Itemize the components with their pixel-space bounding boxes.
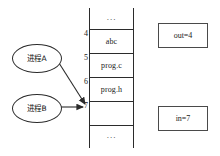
- row-index-4: 4: [78, 30, 88, 38]
- process-b-label: 进程B: [27, 105, 46, 113]
- buffer-row: ...: [89, 126, 134, 148]
- row-index-6: 6: [78, 78, 88, 86]
- buffer-row: abc: [89, 30, 134, 54]
- buffer-row: prog.c: [89, 54, 134, 78]
- in-pointer-box: in=7: [158, 106, 208, 131]
- out-pointer-label: out=4: [174, 32, 193, 40]
- buffer-cell-bottom-ellipsis: ...: [107, 131, 117, 143]
- buffer-row-empty-slot: [89, 102, 134, 126]
- process-a-label: 进程A: [27, 55, 46, 63]
- process-b-node: 进程B: [12, 94, 62, 123]
- buffer-table: ... abc prog.c prog.h ...: [89, 8, 134, 148]
- in-pointer-label: in=7: [176, 115, 191, 123]
- buffer-cell-value: prog.h: [101, 86, 122, 94]
- row-index-5: 5: [78, 54, 88, 62]
- diagram-canvas: ... abc prog.c prog.h ... 4 5 6 7 进程A 进程…: [0, 0, 220, 156]
- process-a-node: 进程A: [12, 44, 62, 73]
- buffer-row: ...: [89, 8, 134, 30]
- out-pointer-box: out=4: [158, 23, 208, 48]
- buffer-cell-top-ellipsis: ...: [107, 13, 117, 25]
- row-index-7: 7: [78, 102, 88, 110]
- buffer-cell-value: abc: [106, 38, 117, 46]
- buffer-row: prog.h: [89, 78, 134, 102]
- buffer-cell-value: prog.c: [101, 62, 122, 70]
